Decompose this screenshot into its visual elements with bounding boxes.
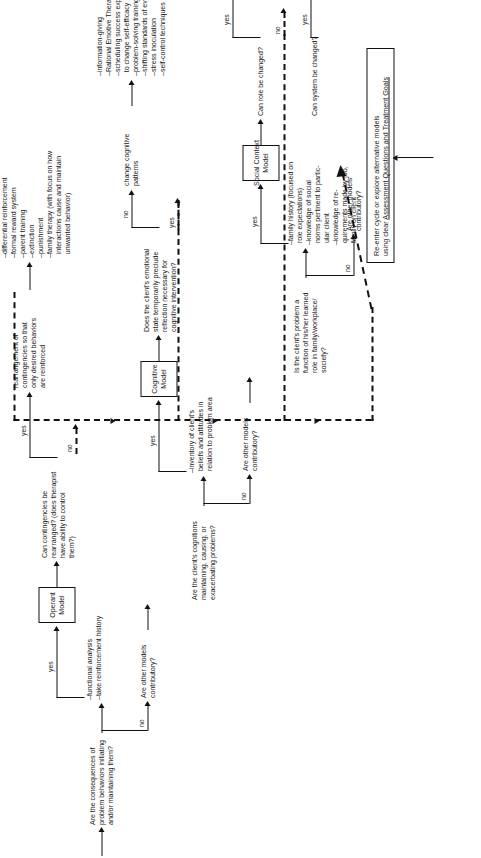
diagram-root: Are the consequences of problem behavior… — [0, 0, 481, 858]
final-box-line1: Re-enter cycle or explore alternative mo… — [371, 49, 381, 256]
feedback-bottom — [371, 307, 373, 421]
diagonal-feedback-line — [0, 0, 481, 858]
final-box-line2-prefix: using clear — [380, 220, 389, 256]
final-box[interactable]: Re-enter cycle or explore alternative mo… — [366, 48, 394, 263]
final-box-line2-underlined: Assessment Questions and Treatment Goals — [380, 77, 389, 220]
final-box-riser — [397, 157, 433, 158]
flowchart-canvas: Are the consequences of problem behavior… — [0, 0, 481, 858]
final-box-line2: using clear Assessment Questions and Tre… — [380, 49, 390, 256]
